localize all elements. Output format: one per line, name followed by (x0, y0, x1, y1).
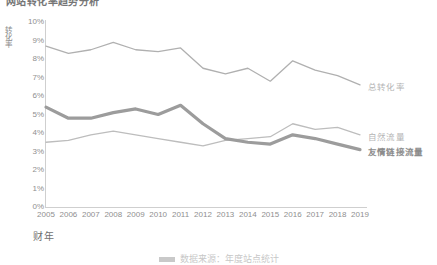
series-line (46, 124, 360, 146)
x-tick-label: 2017 (306, 210, 324, 219)
y-tick-label: 3% (32, 148, 44, 156)
x-tick-label: 2013 (217, 210, 235, 219)
y-tick-label: 2% (32, 166, 44, 174)
caption-text: 数据来源：年度站点统计 (180, 254, 279, 264)
legend-swatch-icon (159, 257, 175, 262)
y-tick-label: 4% (32, 129, 44, 137)
y-tick-label: 9% (32, 37, 44, 45)
plot-area (46, 22, 366, 207)
y-tick-label: 5% (32, 111, 44, 119)
x-axis-line (45, 207, 367, 208)
x-tick-label: 2011 (172, 210, 189, 219)
x-tick-label: 2014 (239, 210, 257, 219)
x-tick-label: 2018 (329, 210, 347, 219)
series-end-label: 友情链接流量 (368, 145, 423, 157)
x-tick-label: 2005 (37, 210, 55, 219)
x-tick-label: 2019 (351, 210, 369, 219)
x-tick-label: 2015 (261, 210, 279, 219)
x-tick-label: 2010 (149, 210, 167, 219)
x-tick-label: 2007 (82, 210, 100, 219)
y-tick-label: 10% (28, 18, 44, 26)
y-tick-label: 1% (32, 185, 44, 193)
x-axis-ticks: 2005200620072008200920102011201220132014… (46, 210, 366, 224)
x-tick-label: 2009 (127, 210, 145, 219)
x-tick-label: 2006 (60, 210, 78, 219)
y-tick-label: 7% (32, 74, 44, 82)
y-tick-label: 8% (32, 55, 44, 63)
y-tick-label: 6% (32, 92, 44, 100)
y-axis-ticks: 10%9%8%7%6%5%4%3%2%1%0% (16, 0, 44, 262)
series-end-label: 总转化率 (368, 80, 405, 92)
x-tick-label: 2016 (284, 210, 302, 219)
x-tick-label: 2012 (194, 210, 212, 219)
series-line (46, 105, 360, 149)
series-end-label: 自然流量 (368, 130, 405, 142)
x-axis-title: 财年 (33, 228, 54, 243)
x-tick-label: 2008 (104, 210, 122, 219)
series-line (46, 42, 360, 85)
y-axis-title: 转化率 (2, 26, 13, 47)
series-lines (46, 22, 366, 207)
chart-caption: 数据来源：年度站点统计 (0, 252, 437, 265)
